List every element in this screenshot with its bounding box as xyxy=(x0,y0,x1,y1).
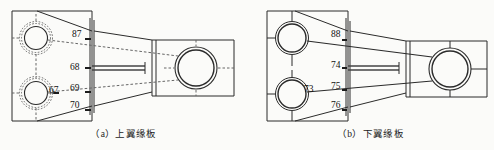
label-70: 70 xyxy=(70,101,80,111)
label-88: 88 xyxy=(331,30,341,40)
leader-line-75-b xyxy=(307,81,432,92)
weld-ring-outer-upper-a xyxy=(22,24,51,53)
label-73: 73 xyxy=(304,85,314,95)
panel-a-caption: （a）上翼缘板 xyxy=(0,126,247,140)
label-67: 67 xyxy=(49,86,59,96)
spokes-upper-b xyxy=(267,11,292,66)
bolt-hole-group-lower-b xyxy=(267,70,309,121)
web-top-edge-a xyxy=(94,31,152,40)
label-68: 68 xyxy=(70,63,80,73)
bolt-hole-group-right-a xyxy=(164,40,234,96)
leader-line-88-b xyxy=(307,41,432,57)
bolt-hole-group-upper-b xyxy=(267,11,309,66)
bolt-hole-circle-lower-a xyxy=(25,82,48,105)
panel-b-lower-flange: 88 74 75 76 73 （b）下翼缘板 xyxy=(247,0,494,150)
web-top-edge-b xyxy=(350,31,406,41)
bolt-hole-ring-upper-b xyxy=(276,22,309,55)
label-74: 74 xyxy=(331,61,341,71)
bolt-hole-group-lower-a xyxy=(12,68,53,121)
label-76: 76 xyxy=(331,101,341,111)
centerlines-lower-a xyxy=(12,68,36,121)
figure-container: 87 68 69 70 67 （a）上翼缘板 xyxy=(0,0,494,150)
leader-line-87-a xyxy=(48,40,178,56)
leader-line-69-a xyxy=(48,80,178,92)
bolt-hole-circle-upper-a xyxy=(25,27,48,50)
bolt-hole-circle-lower-b xyxy=(278,80,306,108)
bolt-hole-group-right-b xyxy=(429,41,487,97)
label-69: 69 xyxy=(70,84,80,94)
centerlines-upper-a xyxy=(12,14,36,68)
panel-a-upper-flange: 87 68 69 70 67 （a）上翼缘板 xyxy=(0,0,247,150)
bolt-hole-ring-right-b xyxy=(429,48,471,90)
bolt-hole-group-upper-a xyxy=(12,14,53,68)
taper-top-edge-a xyxy=(37,11,92,31)
bolt-hole-circle-right-b xyxy=(432,51,468,87)
taper-top-edge-b xyxy=(295,11,348,31)
bolt-hole-circle-upper-b xyxy=(278,24,306,52)
label-75: 75 xyxy=(331,82,341,92)
label-87: 87 xyxy=(72,30,82,40)
bolt-hole-circle-right-a xyxy=(178,50,214,86)
weld-ring-outer-lower-a xyxy=(22,79,51,108)
bolt-hole-ring-right-a xyxy=(175,47,217,89)
web-bottom-edge-b xyxy=(350,93,406,107)
panel-b-caption: （b）下翼缘板 xyxy=(247,126,494,140)
taper-bottom-edge-a xyxy=(37,106,92,121)
web-bottom-edge-a xyxy=(94,92,152,106)
